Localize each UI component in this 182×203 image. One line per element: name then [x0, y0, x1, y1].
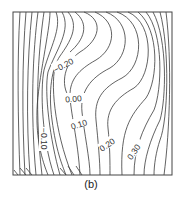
figure-caption: (b): [0, 178, 182, 190]
contour-plot: −0.20 0.00 0.10 −0.10 0.20 0.30: [0, 0, 182, 203]
label-neg010: −0.10: [39, 128, 49, 150]
label-000: 0.00: [65, 93, 83, 104]
contour-lines: [14, 12, 170, 175]
label-neg020: −0.20: [52, 56, 76, 75]
